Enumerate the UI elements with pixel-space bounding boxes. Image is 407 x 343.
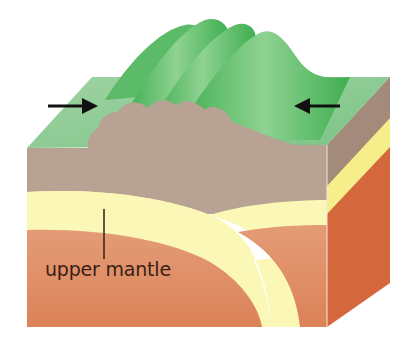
block-diagram <box>0 0 407 343</box>
upper-mantle-label: upper mantle <box>45 258 171 280</box>
